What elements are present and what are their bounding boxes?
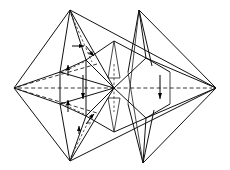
figure-container: φ φ xyxy=(0,0,230,170)
annot-label-phi-upper: φ xyxy=(88,50,91,55)
polyhedron-diagram: φ φ xyxy=(0,0,230,170)
annot-label-phi-lower: φ xyxy=(88,120,91,125)
